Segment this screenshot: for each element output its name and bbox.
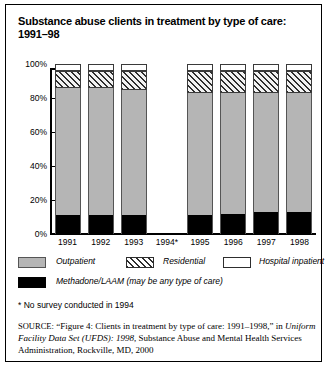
bar-segment-methadone xyxy=(254,212,278,234)
y-axis-tick xyxy=(50,166,55,167)
bar-stack xyxy=(121,64,147,234)
y-axis-tick xyxy=(50,132,55,133)
legend-label-outpatient: Outpatient xyxy=(56,256,95,266)
bar-segment-methadone xyxy=(287,212,311,234)
bar-stack xyxy=(220,64,246,234)
legend-swatch-methadone xyxy=(18,277,46,288)
bar-segment-methadone xyxy=(188,215,212,234)
plot-area xyxy=(51,64,316,234)
bar-segment-hospital-inpatient xyxy=(220,64,246,71)
bar-segment-residential xyxy=(88,71,114,88)
legend-label-hospital-inpatient: Hospital inpatient xyxy=(259,256,324,266)
bar-stack xyxy=(88,64,114,234)
y-axis-tick-label: 0% xyxy=(7,229,47,239)
source-lead: SOURCE: xyxy=(18,321,54,331)
bar-segment-methadone xyxy=(56,215,80,234)
bar-segment-hospital-inpatient xyxy=(253,64,279,71)
bar-segment-residential xyxy=(253,71,279,93)
footnote-no-survey: * No survey conducted in 1994 xyxy=(18,300,134,310)
y-axis-tick-label: 20% xyxy=(7,195,47,205)
bar-segment-residential xyxy=(121,71,147,90)
bar-segment-residential xyxy=(55,71,81,88)
legend-swatch-hospital-inpatient xyxy=(223,257,251,268)
chart-title: Substance abuse clients in treatment by … xyxy=(18,15,308,41)
bar-segment-hospital-inpatient xyxy=(88,64,114,71)
y-axis-tick-label: 100% xyxy=(7,59,47,69)
legend-label-residential: Residential xyxy=(163,256,205,266)
bar-segment-hospital-inpatient xyxy=(55,64,81,71)
bar-stack xyxy=(286,64,312,234)
bar-segment-methadone xyxy=(122,215,146,234)
bar-segment-outpatient xyxy=(121,90,147,235)
bar-segment-outpatient xyxy=(55,88,81,234)
bar-segment-methadone xyxy=(221,214,245,234)
legend-swatch-outpatient xyxy=(18,257,46,268)
y-axis-tick xyxy=(50,98,55,99)
bar-segment-residential xyxy=(220,71,246,93)
y-axis-tick xyxy=(50,200,55,201)
bar-segment-outpatient xyxy=(88,88,114,234)
bar-segment-hospital-inpatient xyxy=(286,64,312,71)
bar-segment-residential xyxy=(286,71,312,93)
y-axis-labels: 0%20%40%60%80%100% xyxy=(6,64,47,234)
bar-stack xyxy=(253,64,279,234)
bar-segment-outpatient xyxy=(187,93,213,234)
y-axis-tick-label: 80% xyxy=(7,93,47,103)
chart-legend: Outpatient Residential Hospital inpatien… xyxy=(18,255,318,291)
legend-swatch-residential xyxy=(126,257,154,268)
legend-row-methadone: Methadone/LAAM (may be any type of care) xyxy=(18,275,318,291)
y-axis-tick-label: 40% xyxy=(7,161,47,171)
bar-segment-hospital-inpatient xyxy=(187,64,213,71)
figure-frame: Substance abuse clients in treatment by … xyxy=(5,4,322,362)
source-note: SOURCE: “Figure 4: Clients in treatment … xyxy=(18,321,318,356)
bar-stack xyxy=(187,64,213,234)
x-axis-tick-label: 1998 xyxy=(277,237,321,247)
bar-segment-hospital-inpatient xyxy=(121,64,147,71)
bar-segment-residential xyxy=(187,71,213,93)
bar-segment-methadone xyxy=(89,215,113,234)
y-axis-tick-label: 60% xyxy=(7,127,47,137)
legend-row-primary: Outpatient Residential Hospital inpatien… xyxy=(18,255,318,271)
legend-label-methadone: Methadone/LAAM (may be any type of care) xyxy=(56,276,223,286)
source-part1: “Figure 4: Clients in treatment by type … xyxy=(54,321,285,331)
bar-stack xyxy=(55,64,81,234)
